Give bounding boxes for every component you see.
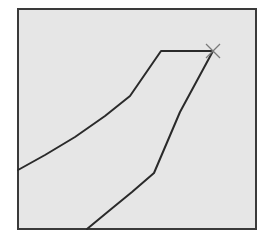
diagram-canvas bbox=[0, 0, 268, 245]
plot-frame bbox=[18, 9, 256, 229]
